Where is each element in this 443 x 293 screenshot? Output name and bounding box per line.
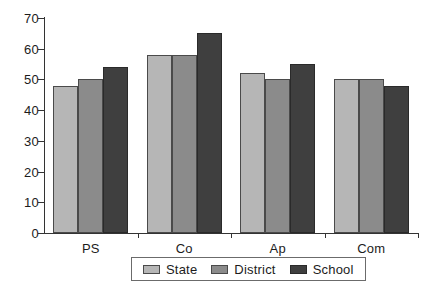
x-tick-label-co: Co [176, 241, 193, 256]
legend-swatch-state [143, 265, 160, 274]
bar-group-com [334, 18, 409, 233]
x-tick-mark [325, 233, 326, 238]
x-tick-label-com: Com [357, 241, 385, 256]
bar-com-school [384, 86, 409, 233]
bar-group-co [147, 18, 222, 233]
y-tick-label: 50 [24, 72, 39, 87]
bar-ap-district [265, 79, 290, 233]
legend-swatch-school [290, 265, 307, 274]
legend-label-state: State [166, 262, 197, 277]
y-tick-label: 10 [24, 195, 39, 210]
bar-co-school [197, 33, 222, 233]
y-tick-label: 30 [24, 133, 39, 148]
legend-item-district: District [211, 262, 275, 277]
x-tick-mark [138, 233, 139, 238]
bar-com-district [359, 79, 384, 233]
plot-area: 010203040506070 [44, 18, 418, 233]
legend-label-district: District [234, 262, 275, 277]
bar-ps-school [103, 67, 128, 233]
bar-co-state [147, 55, 172, 233]
x-tick-mark [418, 233, 419, 238]
bar-chart: 010203040506070 PSCoApCom StateDistrictS… [0, 0, 443, 293]
legend-item-school: School [290, 262, 354, 277]
bar-group-ps [53, 18, 128, 233]
y-tick-label: 20 [24, 164, 39, 179]
bar-group-ap [240, 18, 315, 233]
x-tick-mark [231, 233, 232, 238]
x-tick-label-ap: Ap [270, 241, 286, 256]
bar-com-state [334, 79, 359, 233]
bar-ap-state [240, 73, 265, 233]
bar-ps-district [78, 79, 103, 233]
bar-co-district [172, 55, 197, 233]
y-tick-label: 40 [24, 103, 39, 118]
legend-item-state: State [143, 262, 197, 277]
legend-swatch-district [211, 265, 228, 274]
y-tick-label: 0 [31, 226, 39, 241]
y-tick-label: 70 [24, 11, 39, 26]
bar-ps-state [53, 86, 78, 233]
y-tick-label: 60 [24, 41, 39, 56]
bar-ap-school [290, 64, 315, 233]
x-tick-label-ps: PS [82, 241, 100, 256]
legend-label-school: School [313, 262, 354, 277]
chart-legend: StateDistrictSchool [131, 257, 366, 281]
